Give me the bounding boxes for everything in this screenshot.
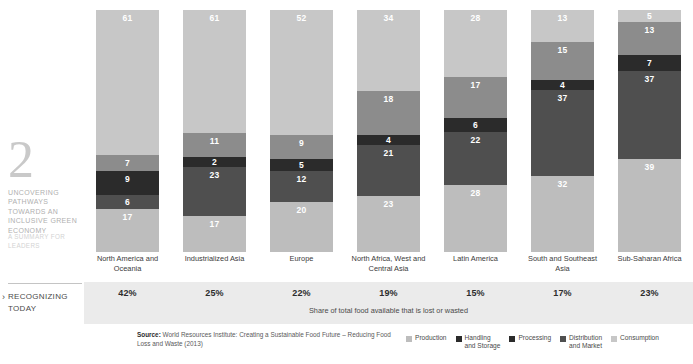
chart-legend: ProductionHandling and StorageProcessing… bbox=[406, 334, 693, 351]
bar-segment-value: 28 bbox=[471, 188, 481, 198]
legend-item: Distribution and Market bbox=[560, 334, 602, 351]
bar-segment-value: 22 bbox=[471, 135, 481, 145]
x-axis-label: North America and Oceania bbox=[84, 254, 171, 280]
legend-item: Consumption bbox=[611, 334, 659, 342]
bar-segment: 61 bbox=[96, 10, 159, 155]
stacked-bar: 611122317 bbox=[183, 10, 246, 252]
bar-segment: 22 bbox=[444, 132, 507, 185]
bar-segment-value: 2 bbox=[212, 157, 217, 167]
bar-segment: 17 bbox=[183, 216, 246, 252]
legend-item: Production bbox=[406, 334, 447, 342]
bar-column: 52951220 bbox=[258, 0, 345, 252]
bar-segment-value: 23 bbox=[384, 199, 394, 209]
chapter-title: UNCOVERING PATHWAYS TOWARDS AN INCLUSIVE… bbox=[8, 188, 80, 235]
legend-swatch-icon bbox=[509, 336, 515, 342]
bar-segment-value: 17 bbox=[471, 80, 481, 90]
bar-segment-value: 9 bbox=[125, 174, 130, 184]
bar-segment-value: 61 bbox=[210, 13, 220, 23]
bar-segment: 20 bbox=[270, 202, 333, 252]
bar-segment-value: 7 bbox=[647, 58, 652, 68]
bar-segment: 5 bbox=[270, 159, 333, 171]
share-value: 25% bbox=[171, 288, 258, 298]
bar-segment: 5 bbox=[618, 10, 681, 22]
bar-segment-value: 52 bbox=[297, 13, 307, 23]
bar-segment-value: 4 bbox=[560, 80, 565, 90]
stacked-bar: 52951220 bbox=[270, 10, 333, 252]
bar-segment: 9 bbox=[96, 171, 159, 195]
bar-segment-value: 39 bbox=[645, 162, 655, 172]
share-values-row: 42%25%22%19%15%17%23% bbox=[84, 282, 693, 304]
source-note: Source: World Resources Institute: Creat… bbox=[137, 331, 397, 348]
bar-segment: 37 bbox=[618, 71, 681, 159]
legend-label: Distribution and Market bbox=[569, 334, 602, 351]
share-value: 15% bbox=[432, 288, 519, 298]
bar-segment-value: 7 bbox=[125, 158, 130, 168]
bar-segment: 13 bbox=[618, 22, 681, 55]
bar-segment-value: 17 bbox=[210, 219, 220, 229]
bar-column: 281762228 bbox=[432, 0, 519, 252]
bar-segment: 18 bbox=[357, 91, 420, 135]
x-axis-label: South and Southeast Asia bbox=[519, 254, 606, 280]
bar-column: 6179617 bbox=[84, 0, 171, 252]
section-label: RECOGNIZING TODAY bbox=[8, 291, 84, 314]
bar-column: 131543732 bbox=[519, 0, 606, 252]
bar-segment: 39 bbox=[618, 159, 681, 252]
bar-segment: 13 bbox=[531, 10, 594, 42]
bar-column: 51373739 bbox=[606, 0, 693, 252]
stacked-bar: 6179617 bbox=[96, 10, 159, 252]
chapter-number: 2 bbox=[8, 134, 34, 186]
bar-segment: 23 bbox=[183, 167, 246, 215]
bar-segment-value: 61 bbox=[123, 13, 133, 23]
bar-segment: 12 bbox=[270, 171, 333, 202]
x-axis-labels: North America and OceaniaIndustrialized … bbox=[84, 254, 693, 280]
share-caption: Share of total food available that is lo… bbox=[84, 306, 693, 315]
legend-item: Processing bbox=[509, 334, 551, 342]
bar-segment-value: 4 bbox=[386, 135, 391, 145]
bar-segment: 2 bbox=[183, 157, 246, 167]
bar-segment-value: 5 bbox=[299, 160, 304, 170]
bar-segment: 9 bbox=[270, 135, 333, 159]
bar-segment: 23 bbox=[357, 196, 420, 252]
legend-label: Production bbox=[415, 334, 447, 342]
share-band: 42%25%22%19%15%17%23% Share of total foo… bbox=[84, 282, 693, 324]
bar-segment-value: 37 bbox=[558, 93, 568, 103]
bar-segment-value: 5 bbox=[647, 11, 652, 21]
bar-column: 611122317 bbox=[171, 0, 258, 252]
rail-divider bbox=[8, 283, 82, 284]
bar-segment-value: 6 bbox=[473, 120, 478, 130]
chevron-right-icon: › bbox=[2, 292, 5, 302]
share-value: 22% bbox=[258, 288, 345, 298]
bar-segment: 17 bbox=[444, 77, 507, 119]
bar-segment: 4 bbox=[531, 80, 594, 90]
legend-swatch-icon bbox=[611, 336, 617, 342]
left-rail: 2 UNCOVERING PATHWAYS TOWARDS AN INCLUSI… bbox=[0, 0, 84, 364]
bar-segment-value: 18 bbox=[384, 94, 394, 104]
bar-segment-value: 34 bbox=[384, 13, 394, 23]
legend-swatch-icon bbox=[456, 336, 462, 342]
bar-segment: 28 bbox=[444, 10, 507, 77]
bar-segment-value: 12 bbox=[297, 174, 307, 184]
legend-swatch-icon bbox=[406, 336, 412, 342]
chapter-subtitle: A SUMMARY FOR LEADERS bbox=[8, 233, 80, 250]
bar-segment: 15 bbox=[531, 42, 594, 79]
bar-segment-value: 28 bbox=[471, 13, 481, 23]
share-value: 23% bbox=[606, 288, 693, 298]
stacked-bar: 341842123 bbox=[357, 10, 420, 252]
bar-segment: 4 bbox=[357, 135, 420, 145]
bar-segment-value: 17 bbox=[123, 212, 133, 222]
bar-segment: 6 bbox=[444, 118, 507, 132]
bar-segment: 21 bbox=[357, 145, 420, 196]
stacked-bar-chart: 6179617611122317529512203418421232817622… bbox=[84, 0, 693, 252]
infographic-page: 2 UNCOVERING PATHWAYS TOWARDS AN INCLUSI… bbox=[0, 0, 693, 364]
bar-segment-value: 32 bbox=[558, 179, 568, 189]
bar-segment: 28 bbox=[444, 185, 507, 252]
x-axis-label: Latin America bbox=[432, 254, 519, 280]
bar-segment: 61 bbox=[183, 10, 246, 133]
bar-segment: 32 bbox=[531, 176, 594, 252]
bar-segment-value: 11 bbox=[210, 136, 219, 146]
bar-segment: 7 bbox=[96, 155, 159, 171]
bar-segment-value: 13 bbox=[558, 13, 568, 23]
legend-label: Consumption bbox=[620, 334, 659, 342]
bar-segment-value: 21 bbox=[384, 148, 394, 158]
bar-segment: 11 bbox=[183, 133, 246, 158]
